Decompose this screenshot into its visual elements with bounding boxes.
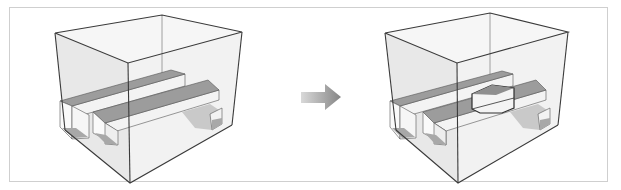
before-panel: [55, 15, 242, 183]
right-arrow-icon: [301, 84, 341, 110]
after-panel: [385, 13, 568, 183]
diagram-canvas: [0, 0, 621, 190]
